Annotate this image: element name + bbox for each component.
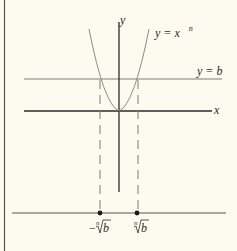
label-positive-root: n b: [134, 219, 149, 235]
negative-sign: −: [89, 221, 96, 235]
curve-label: y = x n: [154, 24, 193, 40]
point-positive-root: [135, 211, 140, 216]
diagram-canvas: y x y = x n y = b − n b n b: [0, 0, 237, 251]
radicand-positive: b: [141, 221, 147, 235]
diagram-svg: y x y = x n y = b − n b n b: [0, 0, 237, 251]
line-y-equals-b-label: y = b: [196, 64, 222, 78]
curve-label-exponent: n: [189, 24, 193, 33]
point-negative-root: [98, 211, 103, 216]
y-axis-label: y: [119, 13, 126, 27]
x-axis-label: x: [213, 103, 220, 117]
label-negative-root: − n b: [89, 219, 111, 235]
radicand-negative: b: [103, 221, 109, 235]
curve-label-main: y = x: [154, 26, 180, 40]
